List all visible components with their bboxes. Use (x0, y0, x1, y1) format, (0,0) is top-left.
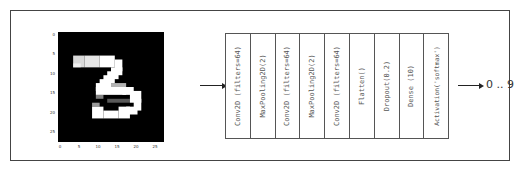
y-tick-15: 15 (45, 90, 55, 95)
layer-dropout: Dropout(0.2) (374, 33, 400, 139)
layer-label: Conv2D (filters=64) (333, 46, 341, 126)
layer-flatten: Flatten() (349, 33, 375, 139)
layer-label: MaxPooling2D(2) (259, 54, 267, 117)
y-tick-5: 5 (45, 51, 55, 56)
y-tick-10: 10 (45, 71, 55, 76)
layer-label: Conv2D (filters=64) (234, 46, 242, 126)
network-layer-stack: Conv2D (filters=64) MaxPooling2D(2) Conv… (225, 33, 449, 139)
layer-conv2d-3: Conv2D (filters=64) (324, 33, 350, 139)
x-tick-25: 25 (150, 144, 160, 149)
x-tick-15: 15 (112, 144, 122, 149)
layer-label: Activation('softmax') (433, 46, 440, 126)
layer-maxpooling2d-2: MaxPooling2D(2) (299, 33, 325, 139)
output-classes-label: 0 .. 9 (486, 78, 514, 91)
layer-maxpooling2d-1: MaxPooling2D(2) (250, 33, 276, 139)
x-tick-20: 20 (131, 144, 141, 149)
output-arrow (458, 85, 480, 86)
y-tick-0: 0 (45, 32, 55, 37)
layer-activation-softmax: Activation('softmax') (423, 33, 449, 139)
y-tick-25: 25 (45, 129, 55, 134)
layer-conv2d-2: Conv2D (filters=64) (275, 33, 301, 139)
layer-label: MaxPooling2D(2) (308, 54, 316, 117)
input-arrow (200, 85, 223, 86)
y-tick-20: 20 (45, 110, 55, 115)
digit-three-pixels (58, 32, 164, 142)
layer-conv2d-1: Conv2D (filters=64) (225, 33, 251, 139)
layer-dense: Dense (10) (399, 33, 425, 139)
mnist-digit-image (58, 32, 164, 142)
x-tick-0: 0 (55, 144, 65, 149)
layer-label: Conv2D (filters=64) (283, 46, 291, 126)
layer-label: Dense (10) (407, 65, 415, 107)
x-tick-5: 5 (74, 144, 84, 149)
layer-label: Dropout(0.2) (383, 61, 391, 112)
layer-label: Flatten() (358, 67, 366, 105)
x-tick-10: 10 (93, 144, 103, 149)
